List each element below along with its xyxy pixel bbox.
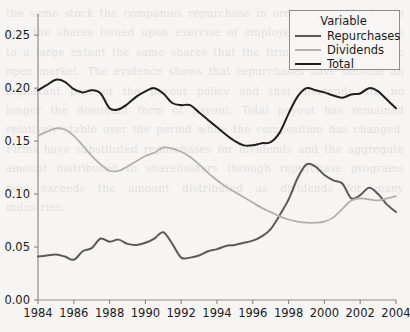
svg-text:2004: 2004	[381, 306, 410, 320]
legend-item-dividends: Dividends	[290, 43, 399, 57]
svg-text:0.10: 0.10	[4, 187, 30, 201]
chart-legend: Variable Repurchases Dividends Total	[289, 10, 400, 70]
legend-label-total: Total	[327, 57, 354, 71]
svg-text:1992: 1992	[167, 306, 196, 320]
x-axis-tick-labels: 1984198619881990199219941996199820002002…	[23, 306, 410, 320]
svg-text:1996: 1996	[238, 306, 267, 320]
legend-label-dividends: Dividends	[327, 43, 384, 57]
svg-text:0.15: 0.15	[4, 134, 30, 148]
svg-text:2002: 2002	[346, 306, 375, 320]
legend-label-repurchases: Repurchases	[327, 29, 400, 43]
legend-swatch-repurchases	[295, 35, 321, 37]
svg-text:0.20: 0.20	[4, 81, 30, 95]
legend-item-repurchases: Repurchases	[290, 29, 399, 43]
svg-text:0.00: 0.00	[4, 293, 30, 307]
svg-text:1986: 1986	[59, 306, 88, 320]
svg-text:0.25: 0.25	[4, 28, 30, 42]
series-lines	[38, 80, 396, 260]
svg-text:1990: 1990	[131, 306, 160, 320]
legend-swatch-dividends	[295, 49, 321, 51]
svg-text:2000: 2000	[310, 306, 339, 320]
legend-title: Variable	[290, 14, 399, 28]
svg-text:0.05: 0.05	[4, 240, 30, 254]
legend-item-total: Total	[290, 57, 399, 71]
svg-text:1984: 1984	[23, 306, 52, 320]
legend-swatch-total	[295, 63, 321, 65]
svg-text:1998: 1998	[274, 306, 303, 320]
y-axis-tick-labels: 0.000.050.100.150.200.25	[4, 28, 30, 307]
svg-text:1994: 1994	[202, 306, 231, 320]
chart-figure: the same stock the companies repurchase …	[0, 0, 410, 332]
svg-text:1988: 1988	[95, 306, 124, 320]
